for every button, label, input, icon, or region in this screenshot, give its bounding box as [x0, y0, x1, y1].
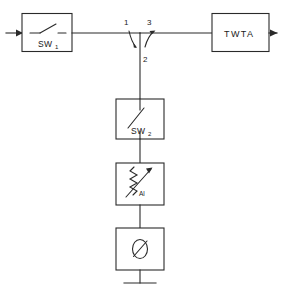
block-sw2[interactable]: SW 2	[116, 99, 164, 139]
block-sw1-label: SW	[38, 39, 53, 49]
block-twta[interactable]: TWTA	[212, 14, 269, 52]
schematic-canvas: SW 1 1 3 2 TWTA	[0, 0, 281, 292]
block-sw1-subscript: 1	[55, 44, 59, 50]
block-attenuator[interactable]: Al	[116, 163, 164, 205]
block-attenuator-label: Al	[139, 190, 145, 197]
ground-termination	[124, 270, 156, 283]
block-sw2-subscript: 2	[148, 131, 152, 137]
block-twta-label: TWTA	[224, 29, 254, 39]
block-sw1[interactable]: SW 1	[22, 14, 72, 52]
junction-port2-label: 2	[143, 55, 148, 64]
input-port-arrow	[6, 30, 23, 37]
block-sw2-label: SW	[131, 126, 146, 136]
output-port-arrow	[269, 30, 278, 37]
block-phase-shifter[interactable]: Ø	[116, 228, 164, 270]
schematic-diagram: SW 1 1 3 2 TWTA	[0, 0, 281, 292]
junction-port1-label: 1	[124, 18, 129, 27]
junction-port3-label: 3	[147, 18, 152, 27]
